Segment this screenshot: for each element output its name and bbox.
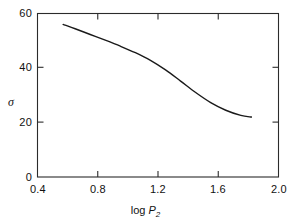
x-tick-label-0-8: 0.8 xyxy=(83,183,113,195)
x-axis-title-prefix: log xyxy=(131,204,149,216)
x-axis-ticks-top xyxy=(98,14,219,20)
x-axis-ticks xyxy=(98,171,219,177)
y-axis-title: σ xyxy=(8,95,14,110)
data-series-line xyxy=(63,24,251,117)
x-tick-label-2-0: 2.0 xyxy=(264,183,291,195)
y-tick-label-0: 0 xyxy=(4,171,32,183)
chart-figure: 60 40 20 0 0.4 0.8 1.2 1.6 2.0 log P2 σ xyxy=(0,0,291,223)
y-axis-ticks-right xyxy=(273,67,279,122)
y-tick-label-20: 20 xyxy=(4,116,32,128)
x-tick-label-1-2: 1.2 xyxy=(143,183,173,195)
axes-frame xyxy=(38,14,279,178)
x-tick-label-0-4: 0.4 xyxy=(23,183,53,195)
x-axis-title-subscript: 2 xyxy=(156,210,160,219)
x-axis-title: log P2 xyxy=(0,204,291,219)
y-axis-ticks xyxy=(38,67,44,122)
x-axis-title-symbol: P xyxy=(148,204,155,216)
y-tick-label-60: 60 xyxy=(4,7,32,19)
y-tick-label-40: 40 xyxy=(4,61,32,73)
x-tick-label-1-6: 1.6 xyxy=(203,183,233,195)
